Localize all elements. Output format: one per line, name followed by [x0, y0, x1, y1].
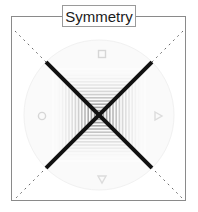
figure-frame — [11, 16, 186, 201]
symmetry-figure: Symmetry — [0, 0, 198, 212]
figure-title-box: Symmetry — [62, 5, 136, 27]
page-title: Symmetry — [65, 9, 133, 24]
